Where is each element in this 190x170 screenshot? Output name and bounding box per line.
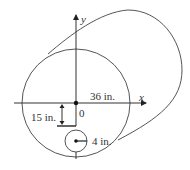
hole-radius-label: 4 in. (92, 136, 112, 147)
hole-offset-label: 15 in. (31, 112, 56, 123)
x-axis-label: x (139, 92, 144, 103)
y-axis-label: y (81, 14, 86, 25)
pipe-diagram: y x 0 36 in. 15 in. 4 in. (0, 0, 190, 170)
cylinder-back-outline (48, 10, 182, 140)
origin-dot (74, 101, 78, 105)
origin-label: 0 (79, 108, 85, 119)
outer-radius-label: 36 in. (90, 91, 115, 102)
